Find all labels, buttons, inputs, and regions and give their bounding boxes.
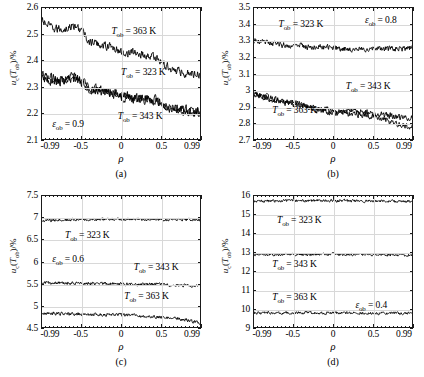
emissivity-label: εob = 0.8: [365, 15, 397, 27]
axis-tick-mark: [201, 324, 202, 328]
series-label-343k: Tob = 343 K: [346, 81, 391, 93]
gridline-vertical: [122, 196, 123, 327]
x-tick-label: 0: [119, 329, 124, 339]
y-tick-label: 12: [241, 266, 250, 276]
y-tick-label: 2.8: [239, 118, 250, 128]
x-axis-label: ρ: [41, 341, 201, 352]
x-tick-label: -0.5: [73, 329, 87, 339]
panel-d: 910111213141516 -0.99-0.500.50.99 ρ (d) …: [212, 188, 424, 376]
gridline-vertical: [374, 8, 375, 139]
y-tick-label: 2.9: [239, 102, 250, 112]
gridline-horizontal: [254, 253, 412, 254]
gridline-horizontal: [254, 310, 412, 311]
x-tick-label: 0.5: [368, 329, 379, 339]
x-tick-label: 0.5: [156, 141, 167, 151]
axis-tick-mark: [201, 7, 202, 11]
panel-caption: (a): [41, 168, 201, 179]
plot-area-b: [253, 7, 413, 140]
y-tick-label: 2.7: [239, 135, 250, 145]
axis-tick-mark: [413, 136, 414, 140]
series-label-323k: Tob = 323 K: [277, 215, 322, 227]
y-tick-label: 3.5: [239, 2, 250, 12]
y-tick-label: 3.1: [239, 69, 250, 79]
panel-caption: (d): [253, 356, 413, 367]
gridline-horizontal: [254, 41, 412, 42]
gridline-horizontal: [42, 218, 200, 219]
gridline-vertical: [334, 196, 335, 327]
y-tick-label: 5.5: [27, 279, 38, 289]
x-tick-label: -0.99: [253, 141, 272, 151]
y-tick-label: 6: [33, 257, 38, 267]
gridline-horizontal: [42, 307, 200, 308]
y-tick-label: 11: [241, 285, 250, 295]
series-label-343k: Tob = 343 K: [272, 259, 317, 271]
x-tick-label: -0.99: [41, 329, 60, 339]
gridline-vertical: [334, 8, 335, 139]
data-series-t-ob-323-k: [254, 199, 412, 203]
axis-tick-mark: [413, 324, 414, 328]
x-tick-label: -0.5: [285, 329, 299, 339]
panel-a: 2.12.22.32.42.52.6 -0.99-0.500.50.99 ρ (…: [0, 0, 212, 188]
x-tick-label: 0.99: [184, 141, 200, 151]
y-tick-label: 3.2: [239, 52, 250, 62]
axis-tick-mark: [413, 195, 414, 199]
panel-b: 2.72.82.933.13.23.33.43.5 -0.99-0.500.50…: [212, 0, 424, 188]
series-label-363k: Tob = 363 K: [111, 26, 156, 38]
y-tick-label: 15: [241, 209, 250, 219]
series-label-323k: Tob = 323 K: [65, 230, 110, 242]
y-tick-label: 6.5: [27, 234, 38, 244]
y-tick-label: 3.4: [239, 19, 250, 29]
x-tick-label: -0.5: [73, 141, 87, 151]
y-tick-label: 5: [33, 301, 38, 311]
x-tick-label: 0.5: [368, 141, 379, 151]
x-tick-label: 0: [331, 329, 336, 339]
y-tick-label: 7.5: [27, 190, 38, 200]
y-tick-label: 2.3: [27, 82, 38, 92]
gridline-horizontal: [254, 234, 412, 235]
x-tick-label: 0: [331, 141, 336, 151]
y-tick-label: 3: [245, 85, 250, 95]
axis-tick-mark: [413, 7, 414, 11]
emissivity-label: εob = 0.9: [52, 119, 84, 131]
axis-tick-mark: [201, 195, 202, 199]
x-axis-label: ρ: [253, 341, 413, 352]
x-tick-label: 0.99: [396, 329, 412, 339]
x-tick-label: -0.5: [285, 141, 299, 151]
emissivity-label: εob = 0.6: [52, 254, 84, 266]
y-tick-label: 13: [241, 247, 250, 257]
series-label-363k: Tob = 363 K: [272, 292, 317, 304]
y-tick-label: 2.4: [27, 55, 38, 65]
x-axis-label: ρ: [253, 153, 413, 164]
gridline-horizontal: [254, 75, 412, 76]
x-tick-label: 0.99: [396, 141, 412, 151]
y-tick-label: 2.2: [27, 108, 38, 118]
series-label-323k: Tob = 323 K: [121, 67, 166, 79]
x-tick-label: 0: [119, 141, 124, 151]
gridline-horizontal: [42, 61, 200, 62]
gridline-horizontal: [254, 124, 412, 125]
series-label-343k: Tob = 343 K: [118, 111, 163, 123]
data-series-t-ob-363-k: [254, 311, 412, 315]
x-tick-label: -0.99: [253, 329, 272, 339]
gridline-horizontal: [42, 285, 200, 286]
gridline-horizontal: [42, 88, 200, 89]
axis-tick-mark: [201, 136, 202, 140]
y-tick-label: 4.5: [27, 323, 38, 333]
data-series-t-ob-363-k: [42, 312, 200, 324]
y-axis-label: uc(Tob)/%: [8, 8, 20, 128]
y-tick-label: 7: [33, 212, 38, 222]
series-label-343k: Tob = 343 K: [134, 262, 179, 274]
y-axis-label: uc(Tob)/%: [8, 196, 20, 316]
panel-caption: (c): [41, 356, 201, 367]
gridline-horizontal: [254, 272, 412, 273]
y-tick-label: 14: [241, 228, 250, 238]
x-axis-label: ρ: [41, 153, 201, 164]
y-tick-label: 2.6: [27, 2, 38, 12]
gridline-horizontal: [254, 58, 412, 59]
y-tick-label: 10: [241, 304, 250, 314]
series-label-363k: Tob = 363 K: [124, 291, 169, 303]
y-tick-label: 16: [241, 190, 250, 200]
panel-c: 4.555.566.577.5 -0.99-0.500.50.99 ρ (c) …: [0, 188, 212, 376]
series-label-323k: Tob = 323 K: [279, 19, 324, 31]
x-tick-label: 0.5: [156, 329, 167, 339]
